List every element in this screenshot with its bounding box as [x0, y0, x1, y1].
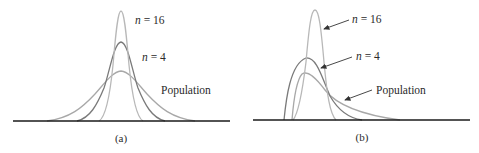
- n16-curve-a: [99, 11, 143, 121]
- figure-canvas: n = 16 n = 4 Population (a) n = 16 n = 4…: [0, 0, 479, 153]
- label-n16-a: n = 16: [135, 14, 165, 26]
- arrow-population-b: [345, 90, 372, 100]
- label-population-a: Population: [161, 84, 211, 97]
- population-curve-a: [47, 71, 195, 121]
- arrow-n16-b: [324, 20, 349, 29]
- caption-a: (a): [115, 132, 128, 145]
- label-population-b: Population: [376, 84, 426, 97]
- population-curve-b: [292, 73, 400, 120]
- caption-b: (b): [356, 131, 369, 144]
- panel-a: n = 16 n = 4 Population (a): [13, 11, 230, 145]
- label-n4-b: n = 4: [356, 50, 380, 62]
- label-n16-b: n = 16: [352, 13, 382, 25]
- panel-b: n = 16 n = 4 Population (b): [253, 10, 470, 144]
- arrow-n4-b: [321, 57, 352, 68]
- label-n4-a: n = 4: [142, 51, 166, 63]
